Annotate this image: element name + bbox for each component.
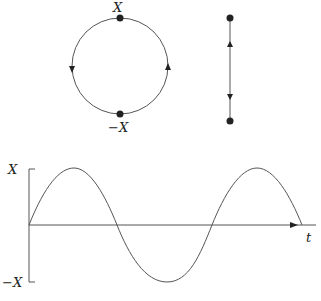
waveform-plot: X −X t xyxy=(2,162,316,290)
linear-motion xyxy=(227,15,234,125)
y-bottom-label: −X xyxy=(2,275,23,290)
top-point xyxy=(117,15,124,22)
line-bottom-point xyxy=(227,118,234,125)
arrow-up-icon xyxy=(227,41,233,47)
phase-circle: X −X xyxy=(69,0,171,135)
arrow-down-icon xyxy=(227,94,233,100)
bottom-point xyxy=(117,111,124,118)
line-top-point xyxy=(227,15,234,22)
arrow-up-icon xyxy=(165,63,171,70)
arrow-right-icon xyxy=(290,222,298,228)
circle-bottom-label: −X xyxy=(108,120,129,135)
oscillation-diagram: X −X X −X t xyxy=(0,0,321,301)
circle-top-label: X xyxy=(112,0,123,15)
y-top-label: X xyxy=(7,162,18,177)
arrow-down-icon xyxy=(69,66,75,73)
t-axis-label: t xyxy=(306,230,312,245)
